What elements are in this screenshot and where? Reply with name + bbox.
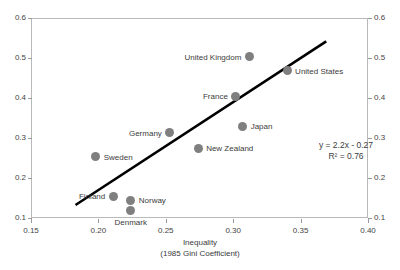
y-axis-left-tick-mark-3 (28, 98, 32, 99)
y-axis-right-tick-0: 0.1 (374, 213, 400, 222)
y-axis-right-tick-1: 0.2 (374, 173, 400, 182)
y-axis-right-tick-mark-2 (368, 138, 372, 139)
y-axis-left-tick-4: 0.5 (2, 53, 26, 62)
x-axis-tick-3: 0.30 (213, 226, 253, 235)
data-point[interactable] (231, 92, 240, 101)
y-axis-left-tick-3: 0.4 (2, 93, 26, 102)
data-point[interactable] (109, 192, 118, 201)
y-axis-right-tick-mark-4 (368, 58, 372, 59)
y-axis-left-tick-mark-5 (28, 18, 32, 19)
y-axis-left-tick-2: 0.3 (2, 133, 26, 142)
y-axis-left-tick-mark-4 (28, 58, 32, 59)
x-axis-tick-mark-3 (233, 219, 234, 223)
y-axis-left-tick-5: 0.6 (2, 13, 26, 22)
r-squared-text: R² = 0.76 (298, 151, 394, 162)
y-axis-right-tick-5: 0.6 (374, 13, 400, 22)
x-axis-title-line1: Inequality (0, 238, 400, 247)
plot-area (31, 18, 368, 218)
data-point-label: United Kingdom (121, 53, 241, 62)
x-axis-tick-mark-0 (31, 219, 32, 223)
y-axis-right-tick-mark-5 (368, 18, 372, 19)
x-axis-tick-0: 0.15 (11, 226, 51, 235)
y-axis-right-tick-4: 0.5 (374, 53, 400, 62)
y-axis-left-tick-1: 0.2 (2, 173, 26, 182)
x-axis-tick-mark-5 (368, 219, 369, 223)
data-point-label: Sweden (104, 153, 224, 162)
equation-text: y = 2.2x - 0.27 (298, 140, 394, 151)
y-axis-right-tick-mark-1 (368, 178, 372, 179)
x-axis-tick-2: 0.25 (146, 226, 186, 235)
data-point[interactable] (126, 196, 135, 205)
y-axis-right-tick-mark-3 (368, 98, 372, 99)
x-axis-tick-5: 0.40 (348, 226, 388, 235)
x-axis-tick-mark-4 (301, 219, 302, 223)
data-point[interactable] (238, 122, 247, 131)
data-point[interactable] (194, 144, 203, 153)
data-point-label: Germany (42, 129, 162, 138)
data-point-label: Norway (139, 196, 259, 205)
data-point-label: Japan (251, 122, 371, 131)
data-point-label: France (108, 92, 228, 101)
y-axis-left-tick-mark-2 (28, 138, 32, 139)
data-point-label: Denmark (71, 218, 191, 227)
data-point-label: Finland (0, 192, 105, 201)
y-axis-left-tick-mark-1 (28, 178, 32, 179)
data-point-label: United States (295, 67, 400, 76)
y-axis-right-tick-3: 0.4 (374, 93, 400, 102)
x-axis-tick-4: 0.35 (281, 226, 321, 235)
scatter-chart: 0.10.20.30.40.50.6 0.10.20.30.40.50.6 0.… (0, 0, 400, 270)
regression-annotation: y = 2.2x - 0.27 R² = 0.76 (298, 140, 394, 162)
y-axis-left-tick-0: 0.1 (2, 213, 26, 222)
x-axis-title-line2: (1985 Gini Coefficient) (0, 249, 400, 258)
x-axis-tick-1: 0.20 (78, 226, 118, 235)
data-point[interactable] (283, 66, 292, 75)
